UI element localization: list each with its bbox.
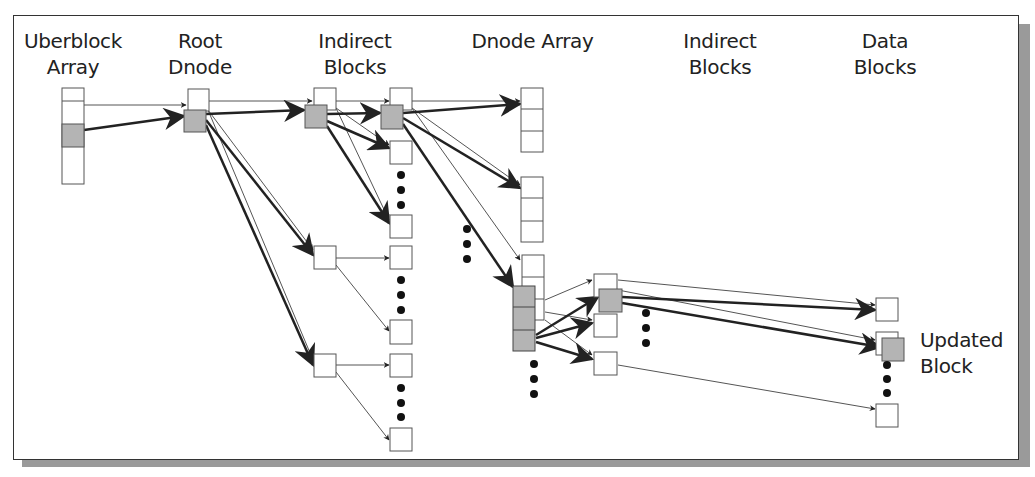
data-block-updated [882, 338, 904, 361]
block-tree-diagram [0, 0, 1035, 477]
indirect-block [314, 246, 336, 269]
indirect-block [594, 352, 617, 375]
old-pointer-arrows [84, 101, 875, 440]
indirect-block [390, 215, 412, 238]
dnode-array [521, 88, 543, 152]
data-block [876, 298, 898, 321]
indirect-block [390, 141, 412, 164]
new-pointer-arrows [84, 104, 880, 365]
indirect-block [390, 354, 412, 377]
indirect-block [390, 320, 412, 344]
indirect-block [390, 428, 412, 451]
dnode-array-updated [513, 286, 535, 351]
indirect-block [594, 314, 617, 337]
uberblock-array [62, 88, 84, 184]
indirect-block-updated [305, 105, 327, 128]
indirect-block-updated [599, 289, 622, 312]
indirect-block [314, 354, 336, 377]
indirect-block [390, 246, 412, 269]
data-block [876, 404, 898, 427]
indirect-block-updated [381, 105, 403, 129]
root-dnode-old [188, 89, 209, 111]
root-dnode-updated [184, 110, 206, 132]
dnode-array [521, 177, 543, 242]
ellipsis-dots [397, 171, 891, 421]
